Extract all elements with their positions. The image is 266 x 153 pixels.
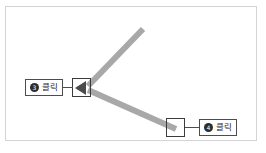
lower-line-segment[interactable] [88, 90, 176, 129]
callout-left-badge: 3 [30, 83, 39, 92]
callout-right-badge: 4 [204, 123, 213, 132]
endpoint-handle-box[interactable] [166, 118, 185, 137]
cursor-arrowhead-icon [75, 81, 86, 95]
callout-right-label: 클릭 [216, 123, 232, 132]
callout-left-label: 클릭 [42, 83, 58, 92]
screenshot-root: 3 클릭 4 클릭 [0, 0, 266, 153]
callout-right[interactable]: 4 클릭 [199, 119, 237, 136]
leader-line-right [185, 127, 199, 128]
upper-line-segment[interactable] [88, 29, 143, 86]
leader-line-left [63, 87, 73, 88]
callout-left[interactable]: 3 클릭 [25, 79, 63, 96]
